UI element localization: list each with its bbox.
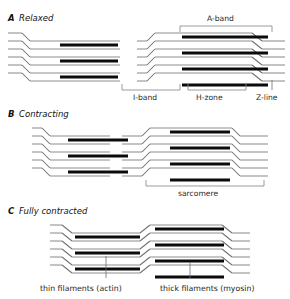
panel-c-thick-filaments: [75, 229, 224, 277]
panel-b-name: Contracting: [19, 109, 69, 119]
sarcomere-diagram-canvas: A Relaxed A-band: [0, 0, 290, 299]
h-zone-label: H-zone: [196, 93, 223, 102]
panel-c-fully-contracted: C Fully contracted: [8, 206, 250, 278]
thick-filament-legend-label: thick filaments (myosin): [160, 284, 254, 293]
panel-c-thin-filaments: [50, 225, 250, 273]
thin-filament-legend-label: thin filaments (actin): [40, 284, 122, 293]
a-band-bracket: [180, 26, 272, 32]
panel-b-thin-filaments: [32, 128, 268, 176]
a-band-label: A-band: [207, 14, 234, 23]
panel-b-thick-filaments: [68, 132, 230, 180]
i-band-label: I-band: [133, 93, 157, 102]
figure-legend: thin filaments (actin) thick filaments (…: [40, 284, 254, 293]
panel-c-letter: C: [8, 206, 15, 216]
panel-a-thick-filaments: [60, 37, 268, 85]
panel-a-relaxed: A Relaxed A-band: [7, 13, 285, 102]
z-line-label: Z-line: [256, 93, 278, 102]
panel-a-name: Relaxed: [19, 13, 54, 23]
panel-b-letter: B: [8, 109, 14, 119]
panel-a-letter: A: [7, 13, 15, 23]
sarcomere-label: sarcomere: [178, 189, 218, 198]
sarcomere-figure: A Relaxed A-band: [0, 0, 290, 299]
panel-b-contracting: B Contracting: [8, 109, 268, 198]
i-band-bracket: [122, 84, 180, 90]
panel-a-thin-filaments: [8, 33, 285, 81]
panel-c-name: Fully contracted: [19, 206, 88, 216]
